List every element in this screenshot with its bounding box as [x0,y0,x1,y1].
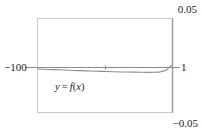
x-axis-min-label: −100 [4,61,27,73]
curve-label-paren-close: ) [81,81,85,92]
curve-label-equals: = [60,81,70,92]
plot-canvas [0,0,202,130]
y-axis-min-label: −0.05 [173,117,198,129]
y-axis-max-label: 0.05 [178,3,197,15]
x-axis-max-label: 1 [181,61,187,73]
curve-equation-label: y = f(x) [55,81,84,93]
graph-figure: 0.05 −0.05 −100 1 y = f(x) [0,0,202,130]
